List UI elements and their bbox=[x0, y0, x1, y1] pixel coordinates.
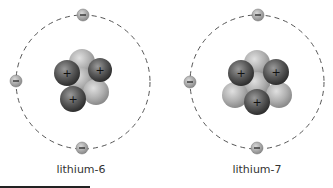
atom-lithium-7: + + + bbox=[184, 9, 324, 154]
isotope-label-lithium-6: lithium-6 bbox=[31, 163, 131, 176]
electron bbox=[10, 75, 22, 87]
neutron bbox=[83, 79, 109, 105]
electron bbox=[76, 142, 88, 154]
electron bbox=[77, 9, 89, 21]
electron bbox=[184, 76, 196, 88]
nucleus: + + + bbox=[54, 49, 112, 112]
svg-text:+: + bbox=[95, 64, 104, 77]
svg-text:+: + bbox=[62, 67, 71, 80]
neutron bbox=[266, 82, 292, 108]
neutron bbox=[222, 82, 248, 108]
divider-line bbox=[0, 186, 90, 188]
electron bbox=[251, 142, 263, 154]
svg-text:+: + bbox=[68, 93, 77, 106]
isotope-diagram: + + + + + bbox=[0, 0, 333, 188]
electron bbox=[252, 9, 264, 21]
svg-text:+: + bbox=[252, 96, 261, 109]
nucleus: + + + bbox=[222, 50, 292, 115]
svg-text:+: + bbox=[271, 66, 280, 79]
svg-text:+: + bbox=[236, 67, 245, 80]
isotope-label-lithium-7: lithium-7 bbox=[207, 163, 307, 176]
atom-lithium-6: + + + bbox=[10, 9, 150, 154]
